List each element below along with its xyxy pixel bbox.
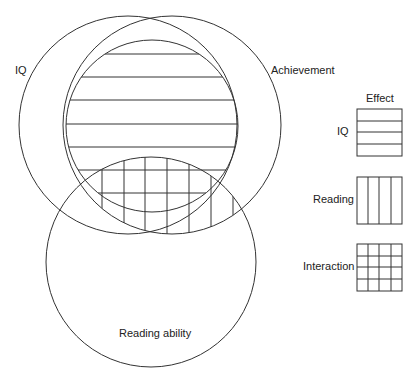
iq-circle-label: IQ [15, 64, 27, 76]
iq-circle [19, 16, 237, 234]
legend-swatch-iq [357, 109, 402, 156]
legend [357, 109, 402, 291]
legend-label-iq: IQ [337, 125, 349, 137]
achievement-circle-label: Achievement [271, 64, 335, 76]
legend-swatch-interaction [357, 244, 402, 291]
iq-effect-circle [66, 40, 238, 212]
legend-label-reading: Reading [313, 193, 354, 205]
legend-swatch-reading [357, 177, 402, 224]
legend-title: Effect [366, 92, 394, 104]
achievement-circle [63, 16, 281, 234]
reading-ability-circle-label: Reading ability [119, 327, 191, 339]
venn-diagram [0, 0, 416, 371]
legend-label-interaction: Interaction [303, 260, 354, 272]
